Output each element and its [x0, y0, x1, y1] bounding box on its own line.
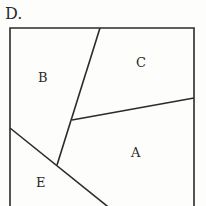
- partition-drawing: [0, 0, 206, 206]
- divider-b-c: [57, 28, 100, 165]
- region-label-a: A: [131, 146, 140, 159]
- region-label-e: E: [36, 176, 46, 189]
- divider-c-a: [72, 98, 194, 120]
- divider-e-a: [10, 128, 112, 206]
- region-label-c: C: [136, 56, 146, 69]
- diagram-figure: D. B C A E: [0, 0, 206, 206]
- region-label-b: B: [38, 71, 48, 84]
